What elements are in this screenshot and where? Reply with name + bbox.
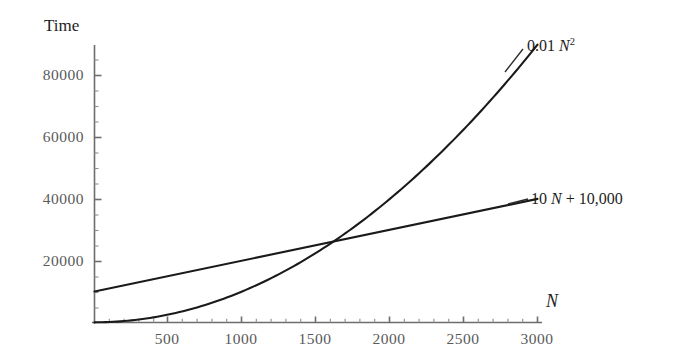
- quad-label-coefficient: 0.01: [527, 37, 559, 54]
- chart-figure: Time N 80000 60000 40000 20000 500 1000 …: [0, 0, 687, 364]
- y-tick-label-60000: 60000: [8, 129, 84, 145]
- lin-label-constant: + 10,000: [562, 190, 623, 207]
- x-major-ticks: [168, 317, 538, 323]
- curve-linear: [95, 199, 538, 292]
- plot-canvas: [0, 0, 687, 364]
- y-tick-label-80000: 80000: [8, 67, 84, 83]
- curve-quadratic: [95, 45, 538, 323]
- lin-label-variable: N: [551, 190, 562, 207]
- y-tick-label-40000: 40000: [8, 191, 84, 207]
- x-tick-label-2500: 2500: [428, 331, 498, 347]
- x-tick-label-3000: 3000: [502, 331, 572, 347]
- quad-label-variable: N: [559, 37, 570, 54]
- x-tick-label-1000: 1000: [206, 331, 276, 347]
- curve-label-quadratic: 0.01 N2: [527, 38, 575, 54]
- curve-label-linear: 10 N + 10,000: [531, 191, 623, 207]
- y-tick-label-20000: 20000: [8, 253, 84, 269]
- lin-label-coefficient: 10: [531, 190, 551, 207]
- quad-label-leader: [505, 49, 523, 72]
- y-axis-title: Time: [44, 17, 79, 34]
- x-axis-title: N: [546, 292, 558, 310]
- x-tick-label-1500: 1500: [280, 331, 350, 347]
- quad-label-exponent: 2: [570, 36, 575, 47]
- x-tick-label-2000: 2000: [354, 331, 424, 347]
- x-tick-label-500: 500: [137, 331, 197, 347]
